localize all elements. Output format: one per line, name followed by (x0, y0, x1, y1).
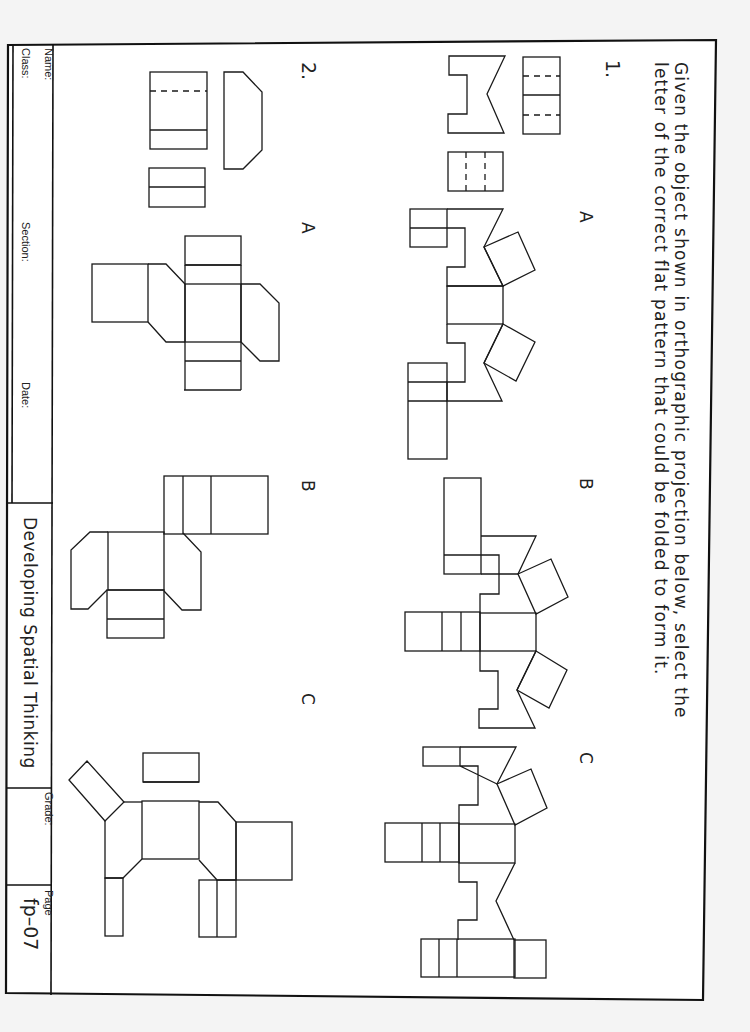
instructions-line-2: letter of the correct flat pattern that … (651, 62, 671, 676)
problem-number: 2. (298, 62, 320, 80)
class-label: Class: (20, 48, 32, 79)
option-letter: C (298, 693, 318, 705)
name-label: Name: (43, 48, 55, 80)
course-title: Developing Spatial Thinking (20, 517, 40, 769)
section-label: Section: (20, 222, 32, 262)
option-letter: B (576, 478, 596, 490)
page-frame (6, 40, 716, 1000)
option-letter: B (298, 480, 318, 492)
grade-label: Grade: (43, 792, 55, 826)
date-label: Date: (20, 382, 32, 408)
name-class-divider (12, 45, 13, 503)
option-letter: A (298, 222, 318, 234)
page-label: Page (43, 890, 55, 916)
page-id: fp–07 (20, 898, 42, 950)
option-letter: A (576, 211, 596, 223)
problem-number: 1. (602, 60, 624, 78)
option-letter: C (576, 752, 596, 764)
worksheet-page: Name: Class: Section: Date: Developing S… (0, 0, 750, 1032)
instructions-line-1: Given the object shown in orthographic p… (671, 62, 691, 719)
